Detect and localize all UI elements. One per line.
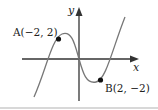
point-a-label: A(−2, 2) bbox=[12, 26, 58, 38]
bottom-divider bbox=[0, 107, 158, 109]
y-axis-arrow-icon bbox=[76, 7, 83, 16]
function-graph-figure: x y A(−2, 2) B(2, −2) bbox=[0, 0, 158, 110]
point-b-label: B(2, −2) bbox=[105, 82, 150, 94]
x-axis bbox=[22, 56, 139, 63]
x-axis-label: x bbox=[133, 61, 140, 74]
point-b-marker bbox=[98, 77, 103, 82]
y-axis-label: y bbox=[67, 4, 75, 17]
y-axis bbox=[76, 7, 83, 101]
